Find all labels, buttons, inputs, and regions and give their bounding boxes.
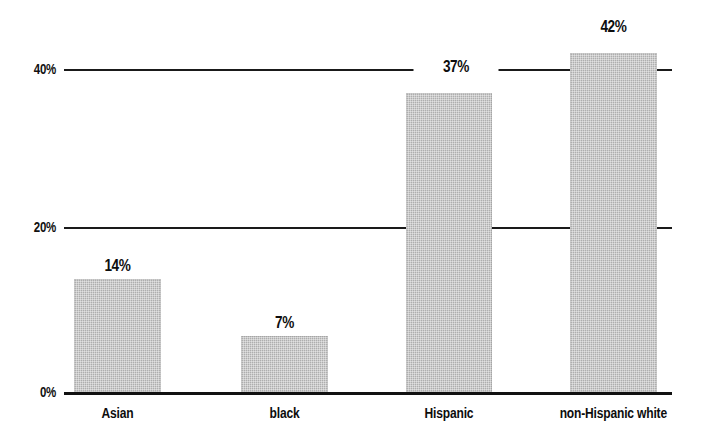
category-label-non-hispanic-white: non-Hispanic white — [560, 405, 667, 421]
bar-black[interactable] — [241, 336, 328, 392]
value-label-non-hispanic-white: 42% — [577, 18, 651, 36]
y-tick-label-0: 0% — [0, 384, 56, 400]
bar-chart: 40% 20% 0% 14% 7% 37% 42% Asian black Hi… — [0, 0, 702, 444]
category-label-black: black — [247, 405, 322, 421]
value-label-black: 7% — [248, 314, 322, 332]
bar-non-hispanic-white[interactable] — [570, 53, 657, 392]
y-tick-label-40: 40% — [0, 61, 56, 77]
bar-hispanic[interactable] — [406, 93, 492, 392]
bar-asian[interactable] — [74, 279, 161, 392]
axis-baseline-0 — [64, 392, 672, 395]
value-label-asian: 14% — [81, 257, 155, 275]
plot-area: 40% 20% 0% 14% 7% 37% 42% Asian black Hi… — [0, 0, 702, 444]
category-label-hispanic: Hispanic — [412, 405, 486, 421]
category-label-asian: Asian — [80, 405, 155, 421]
value-label-hispanic: 37% — [414, 58, 499, 76]
y-tick-label-20: 20% — [0, 219, 56, 235]
